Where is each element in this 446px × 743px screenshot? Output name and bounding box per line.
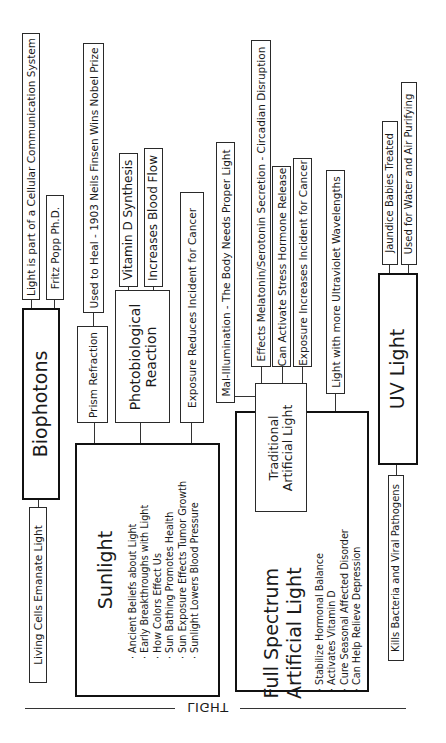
connector [54,300,55,308]
leaf-label: Light is part of a Cellular Communicatio… [25,38,37,296]
leaf-label: Mal-Illumination - The Body Needs Proper… [219,149,231,396]
label-line: Photobiological [126,303,142,410]
node-photobiological-reaction: Photobiological Reaction [115,290,170,423]
title-rule-right [240,708,406,709]
bullet-item: Can Help Relieve Depression [352,529,364,691]
leaf-label: Can Activate Stress Hormone Release [275,167,287,365]
leaf-label: Living Cells Emanate Light [32,525,44,665]
leaf-label: Effects Melatonin/Serotonin Secretion - … [255,46,267,361]
connector [396,465,397,475]
label-line: Full Spectrum [261,567,284,699]
leaf-label: Increases Blood Flow [147,155,161,281]
sunlight-content: Sunlight Ancient Beliefs about Light Ear… [94,450,201,690]
node-uv-light: UV Light [378,273,418,465]
bullet-item: How Colors Effect Us [151,481,163,659]
label-line: Artificial Light [281,404,295,491]
connector [235,396,255,397]
bullet-item: Activates Vitamin D [327,529,339,691]
connector [38,500,39,507]
leaf-more-ultraviolet: Light with more Ultraviolet Wavelengths [326,170,345,394]
title-rule-left [25,708,175,709]
node-label: Sunlight [94,531,116,609]
leaf-label: Exposure Reduces Incident for Cancer [186,207,198,407]
node-biophotons: Biophotons [22,308,60,500]
node-label: Traditional Artificial Light [267,404,296,491]
node-label: Full Spectrum Artificial Light [261,567,307,705]
connector [94,423,95,443]
connector [93,313,94,326]
leaf-cellular-communication: Light is part of a Cellular Communicatio… [22,33,40,300]
label-line: Artificial Light [283,567,306,699]
node-prism-refraction: Prism Refraction [77,326,108,423]
leaf-mal-illumination: Mal-Illumination - The Body Needs Proper… [216,142,235,403]
node-label: Biophotons [30,351,52,458]
leaf-increases-blood-flow: Increases Blood Flow [144,148,163,287]
connector [191,423,192,443]
connector [408,265,409,273]
connector [389,265,390,273]
bullet-item: Early Breakthroughs with Light [138,481,150,659]
leaf-stress-hormone: Can Activate Stress Hormone Release [272,166,291,367]
leaf-label: Exposure Increases Incident for Cancer [296,160,308,366]
leaf-label: Light with more Ultraviolet Wavelengths [329,176,341,387]
leaf-kills-bacteria: Kills Bacteria and Viral Pathogens [388,475,404,661]
bullet-item: Cure Seasonal Affected Disorder [339,529,351,691]
node-sunlight: Sunlight Ancient Beliefs about Light Ear… [75,443,220,697]
leaf-label: Used to Heal - 1903 Neils Finsen Wins No… [87,48,99,309]
connector [335,394,336,411]
connector [282,367,283,383]
title-text: LIGHT [183,700,233,715]
label-line: Traditional [267,404,281,491]
leaf-label: Vitamin D Synthesis [122,160,136,281]
node-label: Prism Refraction [86,331,98,417]
leaf-used-to-heal: Used to Heal - 1903 Neils Finsen Wins No… [83,43,104,313]
leaf-water-air-purifying: Used for Water and Air Purifying [401,82,417,265]
diagram-title: LIGHT [0,700,446,716]
connector [302,367,303,383]
leaf-exposure-increases-cancer: Exposure Increases Incident for Cancer [293,158,312,367]
label-line: Reaction [143,303,159,410]
leaf-label: Fritz Popp Ph.D. [49,206,61,288]
node-traditional-artificial-light: Traditional Artificial Light [255,383,307,512]
node-label: UV Light [387,329,409,409]
full-spectrum-bullets: Stabilize Hormonal Balance Activates Vit… [314,529,364,705]
leaf-label: Used for Water and Air Purifying [403,93,415,254]
leaf-fritz-popp: Fritz Popp Ph.D. [46,195,64,300]
leaf-label: Jaundice Babies Treated [384,133,396,253]
leaf-vitamin-d-synthesis: Vitamin D Synthesis [119,153,138,287]
connector [140,423,141,443]
bullet-item: Sun Exposure Effects Tumor Growth [176,481,188,659]
leaf-label: Kills Bacteria and Viral Pathogens [390,484,402,652]
leaf-effects-melatonin: Effects Melatonin/Serotonin Secretion - … [251,40,271,367]
connector [261,367,262,383]
bullet-item: Stabilize Hormonal Balance [314,529,326,691]
leaf-living-cells: Living Cells Emanate Light [29,507,47,683]
connector [31,300,32,308]
bullet-item: Sunlight Lowers Blood Pressure [188,481,200,659]
leaf-exposure-reduces-cancer: Exposure Reduces Incident for Cancer [180,192,204,423]
sunlight-bullets: Ancient Beliefs about Light Early Breakt… [126,481,201,659]
bullet-item: Sun Bathing Promotes Health [163,481,175,659]
bullet-item: Ancient Beliefs about Light [126,481,138,659]
node-label: Photobiological Reaction [126,303,158,410]
leaf-jaundice: Jaundice Babies Treated [382,121,398,265]
